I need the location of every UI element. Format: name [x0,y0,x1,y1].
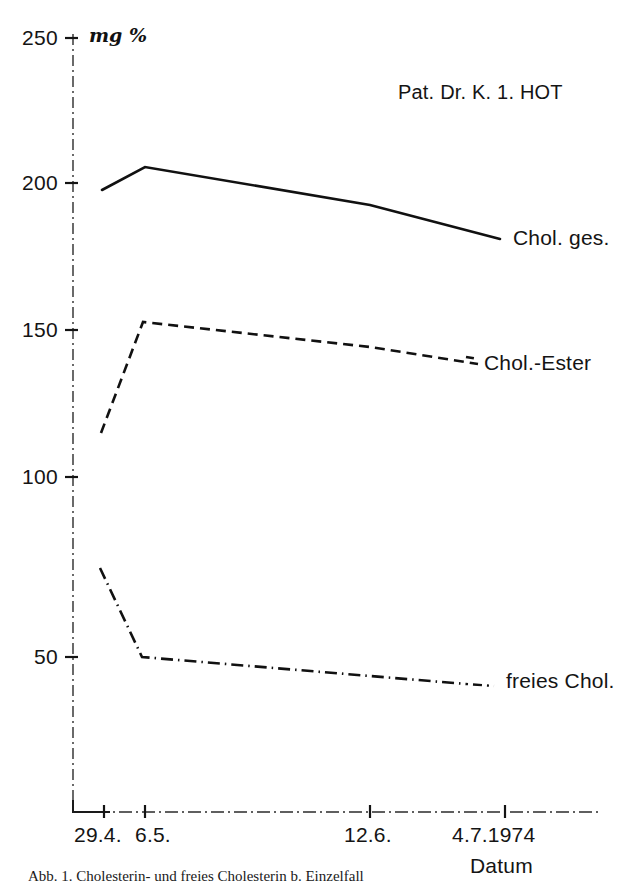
series-label-chol-ester: Chol.-Ester [484,352,591,373]
y-tick-label-50: 50 [0,646,58,667]
series-leader-chol-ester [466,357,478,359]
x-tick-label-3: 12.6. [344,824,392,845]
patient-annotation: Pat. Dr. K. 1. HOT [398,82,563,102]
series-line-chol-ester [101,322,478,433]
chart-figure: mg % Pat. Dr. K. 1. HOT 250 200 150 100 … [0,0,643,883]
series-line-chol-ges [102,167,500,239]
y-tick-label-250: 250 [0,27,58,48]
x-tick-label-1: 29.4. [74,824,122,845]
x-tick-label-4: 4.7.1974 [452,824,535,845]
y-axis-unit-label: mg % [89,26,147,45]
series-line-freies-chol [100,568,466,684]
y-tick-label-150: 150 [0,319,58,340]
y-tick-label-100: 100 [0,466,58,487]
chart-plot-area [0,0,643,883]
y-tick-marks [65,38,78,657]
y-tick-label-200: 200 [0,172,58,193]
series-label-chol-ges: Chol. ges. [513,227,610,248]
series-label-freies-chol: freies Chol. [506,670,615,691]
figure-caption: Abb. 1. Cholesterin- und freies Choleste… [28,868,628,883]
x-tick-label-2: 6.5. [135,824,171,845]
series-leader-freies-chol [466,684,494,686]
